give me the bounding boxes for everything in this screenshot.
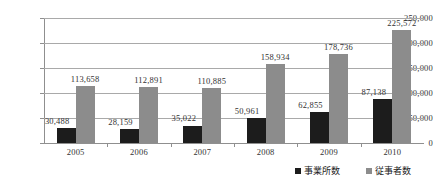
data-label-employees: 112,891 bbox=[123, 76, 175, 85]
x-axis-label: 2006 bbox=[107, 147, 170, 157]
gridline bbox=[44, 18, 424, 19]
bar-establishments bbox=[57, 128, 76, 143]
x-axis-label: 2010 bbox=[361, 147, 424, 157]
bar-establishments bbox=[120, 129, 139, 143]
plot-area: 30,488113,65828,159112,89135,022110,8855… bbox=[44, 18, 424, 143]
data-label-employees: 225,572 bbox=[376, 19, 428, 28]
bar-employees bbox=[329, 54, 348, 143]
data-label-employees: 178,736 bbox=[313, 43, 365, 52]
bar-employees bbox=[76, 86, 95, 143]
data-label-establishments: 28,159 bbox=[99, 118, 143, 127]
legend-entry[interactable]: 事業所数 bbox=[295, 166, 340, 176]
bar-employees bbox=[266, 64, 285, 143]
bar-group bbox=[373, 18, 411, 143]
x-axis-label: 2009 bbox=[297, 147, 360, 157]
gridline bbox=[44, 43, 424, 44]
data-label-establishments: 35,022 bbox=[162, 114, 206, 123]
x-axis-label: 2008 bbox=[234, 147, 297, 157]
bar-employees bbox=[139, 87, 158, 143]
bar-employees bbox=[392, 30, 411, 143]
bar-group bbox=[247, 18, 285, 143]
data-label-employees: 158,934 bbox=[249, 53, 301, 62]
bar-establishments bbox=[373, 99, 392, 143]
x-axis-label: 2007 bbox=[171, 147, 234, 157]
data-label-establishments: 50,961 bbox=[225, 107, 269, 116]
bar-establishments bbox=[247, 118, 266, 143]
gridline bbox=[44, 68, 424, 69]
legend-label: 事業所数 bbox=[304, 166, 340, 176]
bar-group bbox=[310, 18, 348, 143]
data-label-employees: 110,885 bbox=[186, 77, 238, 86]
legend-label: 従事者数 bbox=[375, 166, 411, 176]
data-label-establishments: 30,488 bbox=[35, 117, 79, 126]
data-label-establishments: 87,138 bbox=[352, 88, 396, 97]
legend-entry[interactable]: 従事者数 bbox=[366, 166, 411, 176]
x-axis-label: 2005 bbox=[44, 147, 107, 157]
bar-establishments bbox=[310, 112, 329, 143]
data-label-establishments: 62,855 bbox=[289, 101, 333, 110]
legend-swatch-icon bbox=[295, 168, 301, 174]
data-label-employees: 113,658 bbox=[59, 75, 111, 84]
chart-legend: 事業所数従事者数 bbox=[0, 166, 433, 176]
legend-swatch-icon bbox=[366, 168, 372, 174]
bar-establishments bbox=[183, 126, 202, 144]
bar-chart: 050,000100,000150,000200,000250,000 30,4… bbox=[0, 0, 433, 188]
